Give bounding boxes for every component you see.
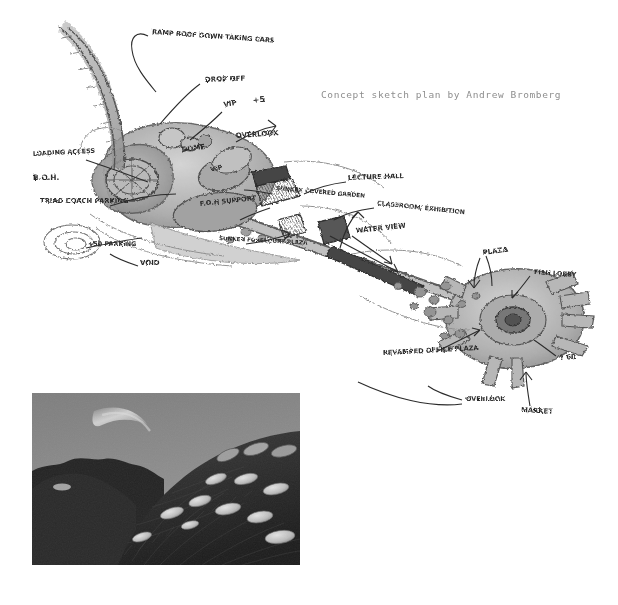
sketch-massing-shading — [44, 26, 594, 388]
annotation-question-60: ? 60 — [560, 353, 577, 362]
annotation-vip: VIP — [223, 99, 237, 109]
concept-sketch-caption: Concept sketch plan by Andrew Bromberg — [321, 89, 561, 100]
photo-film-grain — [32, 393, 300, 565]
annotation-lecture-hall: LECTURE HALL — [348, 172, 405, 182]
annotation-market: MARKET — [521, 406, 554, 416]
page-canvas: RAMP ROOF DOWN TAKING CARS DROP OFF VIP … — [0, 0, 618, 605]
precedent-photograph — [32, 393, 300, 565]
annotation-triad-coach-parking: TRIAD COACH PARKING — [40, 197, 129, 205]
annotation-plus-five: +5 — [252, 95, 266, 105]
annotation-loading-access: LOADING ACCESS — [33, 147, 96, 158]
concept-sketch-figure: RAMP ROOF DOWN TAKING CARS DROP OFF VIP … — [0, 0, 618, 420]
annotation-classroom-exhibition: CLASSROOM/ EXHIBITION — [377, 199, 465, 215]
annotation-void: VOID — [140, 259, 160, 267]
annotation-plus-50-parking: +50 PARKING — [88, 240, 136, 248]
concept-sketch-drawing: RAMP ROOF DOWN TAKING CARS DROP OFF VIP … — [0, 0, 618, 420]
annotation-boh: B.O.H. — [33, 173, 60, 182]
annotation-overlook-top: OVERLOOK — [236, 129, 280, 140]
annotation-ramp-roof: RAMP ROOF DOWN TAKING CARS — [152, 28, 275, 45]
annotation-plaza: PLAZA — [482, 245, 509, 257]
annotation-drop-off: DROP OFF — [205, 75, 246, 84]
annotation-overlook-bottom: OVERLOOK — [466, 395, 506, 403]
annotation-revamped-office-plaza: REVAMPED OFFICE PLAZA — [383, 344, 480, 357]
precedent-photo-figure: Precedent image — [32, 393, 300, 565]
